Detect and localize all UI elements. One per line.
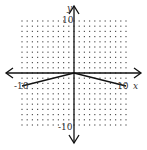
x-max-tick-label: 10 (117, 81, 129, 91)
x-min-tick-label: -10 (14, 81, 29, 91)
y-axis-label: y (66, 3, 73, 13)
coordinate-plane: 10 -10 -10 10 x y (0, 0, 147, 150)
y-min-tick-label: -10 (58, 122, 73, 132)
x-axis-label: x (133, 81, 138, 91)
y-max-tick-label: 10 (62, 15, 74, 25)
